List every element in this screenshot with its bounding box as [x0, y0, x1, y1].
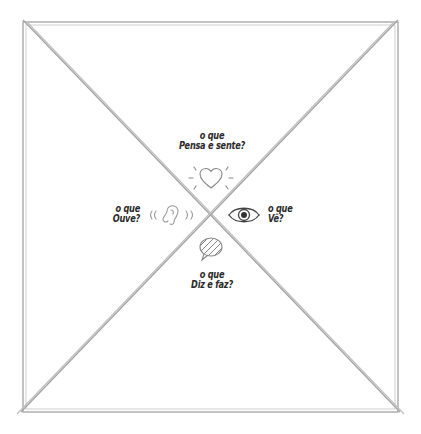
top-quadrant-title: Pensa e sente? — [161, 141, 263, 151]
left-quadrant-title: Ouve? — [103, 214, 140, 224]
bottom-quadrant-title: Diz e faz? — [178, 280, 247, 290]
heart-icon — [185, 163, 237, 195]
empathy-map-frame — [0, 0, 421, 434]
speech-bubble-icon — [196, 236, 226, 262]
eye-icon — [226, 204, 262, 226]
ear-icon — [146, 203, 200, 227]
right-quadrant-title: Vê? — [268, 214, 301, 224]
bottom-quadrant-label: o que Diz e faz? — [178, 270, 247, 290]
left-quadrant-label: o que Ouve? — [103, 204, 140, 224]
right-quadrant-label: o que Vê? — [268, 204, 301, 224]
top-quadrant-label: o que Pensa e sente? — [161, 131, 263, 151]
